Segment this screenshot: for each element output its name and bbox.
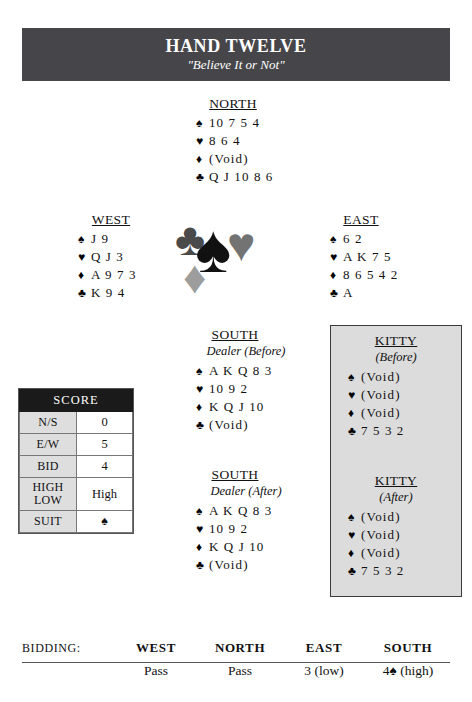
bid-west: Pass — [114, 663, 198, 679]
hand-south-after-spades: A K Q 8 3 — [209, 502, 272, 520]
hand-kitty-before: KITTY (Before) ♠ (Void) ♥ (Void) ♦ (Void… — [340, 333, 460, 440]
hand-south-after-suits: ♠ A K Q 8 3 ♥ 10 9 2 ♦ K Q J 10 ♣ (Void) — [196, 502, 346, 574]
heart-icon: ♥ — [330, 248, 343, 266]
hand-north-spades: 10 7 5 4 — [209, 114, 260, 132]
hand-kitty-before-hearts: (Void) — [361, 386, 401, 404]
score-label-suit: Suit — [20, 511, 77, 533]
score-row-ew: E/W 5 — [20, 434, 133, 456]
hand-south-before-diamonds: K Q J 10 — [209, 398, 264, 416]
bidding-section: BIDDING: WEST NORTH EAST SOUTH Pass Pass… — [22, 640, 450, 689]
suit-row-hearts: ♥ A K 7 5 — [330, 248, 470, 266]
hand-north-clubs: Q J 10 8 6 — [209, 168, 273, 186]
suit-row-spades: ♠ 10 7 5 4 — [196, 114, 346, 132]
hand-diagram-page: HAND TWELVE "Believe It or Not" NORTH ♠ … — [0, 0, 472, 702]
diamond-icon: ♦ — [348, 404, 361, 422]
suit-row-clubs: ♣ (Void) — [196, 556, 346, 574]
score-row-high-low: High Low High — [20, 478, 133, 511]
heart-motif-icon: ♥ — [227, 221, 256, 269]
hand-north: NORTH ♠ 10 7 5 4 ♥ 8 6 4 ♦ (Void) ♣ Q J … — [196, 96, 346, 186]
hand-east-spades: 6 2 — [343, 230, 363, 248]
diamond-icon: ♦ — [348, 544, 361, 562]
score-table-header: SCORE — [20, 390, 133, 412]
hand-south-before-suits: ♠ A K Q 8 3 ♥ 10 9 2 ♦ K Q J 10 ♣ (Void) — [196, 362, 346, 434]
suit-row-diamonds: ♦ (Void) — [196, 150, 346, 168]
hand-south-after: SOUTH Dealer (After) ♠ A K Q 8 3 ♥ 10 9 … — [196, 467, 346, 574]
club-icon: ♣ — [330, 284, 343, 302]
hand-north-hearts: 8 6 4 — [209, 132, 241, 150]
club-icon: ♣ — [196, 168, 209, 186]
score-row-bid: Bid 4 — [20, 456, 133, 478]
hand-south-before-dealer: Dealer (Before) — [196, 344, 296, 360]
club-icon: ♣ — [348, 422, 361, 440]
suit-row-clubs: ♣ Q J 10 8 6 — [196, 168, 346, 186]
spade-icon: ♠ — [348, 508, 361, 526]
hand-north-label: NORTH — [196, 96, 270, 112]
suit-row-clubs: ♣ 7 5 3 2 — [348, 562, 460, 580]
title-banner: HAND TWELVE "Believe It or Not" — [22, 28, 450, 81]
hand-kitty-before-spades: (Void) — [361, 368, 401, 386]
spade-motif-icon: ♠ — [195, 215, 231, 283]
score-value-ns: 0 — [77, 412, 133, 434]
heart-icon: ♥ — [348, 386, 361, 404]
score-row-suit: Suit ♠ — [20, 511, 133, 533]
hand-east-hearts: A K 7 5 — [343, 248, 392, 266]
hand-west-diamonds: A 9 7 3 — [91, 266, 137, 284]
hand-west-label: WEST — [78, 212, 144, 228]
hand-south-before-clubs: (Void) — [209, 416, 249, 434]
bidding-column-west: WEST — [114, 640, 198, 656]
hand-kitty-after: KITTY (After) ♠ (Void) ♥ (Void) ♦ (Void)… — [340, 473, 460, 580]
bidding-header-row: BIDDING: WEST NORTH EAST SOUTH — [22, 640, 450, 660]
spade-icon: ♠ — [78, 230, 91, 248]
score-table: SCORE N/S 0 E/W 5 Bid 4 High Low High — [18, 388, 134, 534]
hand-north-diamonds: (Void) — [209, 150, 249, 168]
score-row-ns: N/S 0 — [20, 412, 133, 434]
heart-icon: ♥ — [196, 380, 209, 398]
score-value-bid: 4 — [77, 456, 133, 478]
hand-south-after-label: SOUTH — [196, 467, 274, 483]
heart-icon: ♥ — [196, 132, 209, 150]
score-label-low: Low — [22, 494, 74, 507]
suit-row-hearts: ♥ (Void) — [348, 526, 460, 544]
score-label-ns: N/S — [20, 412, 77, 434]
hand-kitty-after-hearts: (Void) — [361, 526, 401, 544]
heart-icon: ♥ — [196, 520, 209, 538]
hand-south-after-diamonds: K Q J 10 — [209, 538, 264, 556]
spade-icon: ♠ — [196, 502, 209, 520]
heart-icon: ♥ — [78, 248, 91, 266]
hand-kitty-after-clubs: 7 5 3 2 — [361, 562, 404, 580]
suit-row-hearts: ♥ 10 9 2 — [196, 520, 346, 538]
hand-kitty-after-suits: ♠ (Void) ♥ (Void) ♦ (Void) ♣ 7 5 3 2 — [348, 508, 460, 580]
suit-row-diamonds: ♦ (Void) — [348, 544, 460, 562]
heart-icon: ♥ — [348, 526, 361, 544]
diamond-icon: ♦ — [330, 266, 343, 284]
hand-south-before: SOUTH Dealer (Before) ♠ A K Q 8 3 ♥ 10 9… — [196, 327, 346, 434]
hand-kitty-after-phase: (After) — [340, 490, 452, 506]
hand-west-clubs: K 9 4 — [91, 284, 125, 302]
hand-west-hearts: Q J 3 — [91, 248, 124, 266]
hand-east-diamonds: 8 6 5 4 2 — [343, 266, 398, 284]
club-icon: ♣ — [196, 416, 209, 434]
hand-south-before-hearts: 10 9 2 — [209, 380, 248, 398]
suit-row-spades: ♠ A K Q 8 3 — [196, 362, 346, 380]
suit-row-clubs: ♣ (Void) — [196, 416, 346, 434]
club-icon: ♣ — [196, 556, 209, 574]
bidding-column-north: NORTH — [198, 640, 282, 656]
hand-south-before-spades: A K Q 8 3 — [209, 362, 272, 380]
suit-row-spades: ♠ 6 2 — [330, 230, 470, 248]
hand-kitty-after-spades: (Void) — [361, 508, 401, 526]
hand-kitty-after-diamonds: (Void) — [361, 544, 401, 562]
score-value-high-low: High — [77, 478, 133, 511]
suit-motif-decoration: ♣ ♥ ♦ ♠ — [175, 213, 285, 311]
suit-row-hearts: ♥ 10 9 2 — [196, 380, 346, 398]
spade-icon: ♠ — [330, 230, 343, 248]
page-title: HAND TWELVE — [165, 37, 306, 56]
bid-south: 4♠ (high) — [366, 663, 450, 679]
suit-row-clubs: ♣ A — [330, 284, 470, 302]
suit-row-diamonds: ♦ (Void) — [348, 404, 460, 422]
diamond-icon: ♦ — [196, 398, 209, 416]
hand-kitty-before-clubs: 7 5 3 2 — [361, 422, 404, 440]
suit-row-diamonds: ♦ K Q J 10 — [196, 398, 346, 416]
hand-south-after-hearts: 10 9 2 — [209, 520, 248, 538]
hand-north-suits: ♠ 10 7 5 4 ♥ 8 6 4 ♦ (Void) ♣ Q J 10 8 6 — [196, 114, 346, 186]
club-icon: ♣ — [348, 562, 361, 580]
